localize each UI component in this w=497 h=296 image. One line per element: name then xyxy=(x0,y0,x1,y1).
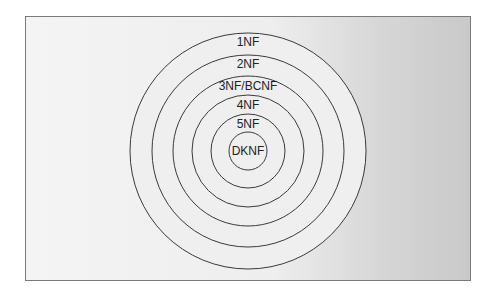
label-1nf: 1NF xyxy=(237,35,260,49)
label-5nf: 5NF xyxy=(237,117,260,131)
label-2nf: 2NF xyxy=(237,57,260,71)
label-4nf: 4NF xyxy=(237,98,260,112)
normal-forms-diagram: 1NF 2NF 3NF/BCNF 4NF 5NF DKNF xyxy=(0,0,497,296)
label-3nf-bcnf: 3NF/BCNF xyxy=(219,79,278,93)
label-dknf: DKNF xyxy=(232,144,265,158)
